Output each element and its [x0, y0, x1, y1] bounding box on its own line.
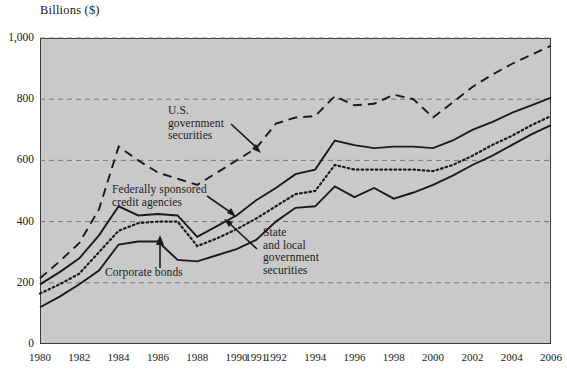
- annotation-state-local-line4: securities: [263, 264, 319, 277]
- annotation-state-local: State and local government securities: [263, 226, 319, 276]
- annotation-fed-credit-line1: Federally sponsored: [112, 183, 207, 196]
- x-tick-label: 1996: [334, 351, 374, 363]
- chart-svg: [0, 0, 567, 376]
- y-tick-label: 0: [0, 337, 34, 349]
- annotation-corporate-line1: Corporate bonds: [105, 266, 183, 279]
- x-tick-label: 2004: [492, 351, 532, 363]
- y-tick-label: 800: [0, 92, 34, 104]
- x-tick-label: 1986: [138, 351, 178, 363]
- x-tick-label: 2006: [531, 351, 567, 363]
- annotation-us-gov-line2: government: [168, 117, 224, 130]
- annotation-fed-credit-line2: credit agencies: [112, 196, 207, 209]
- annotation-us-gov-line3: securities: [168, 129, 224, 142]
- x-tick-label: 1992: [256, 351, 296, 363]
- annotation-state-local-line1: State: [263, 226, 319, 239]
- leader-fed-credit-arrowhead: [227, 208, 236, 217]
- annotation-us-gov-line1: U.S.: [168, 104, 224, 117]
- x-tick-label: 1984: [99, 351, 139, 363]
- x-tick-label: 1980: [20, 351, 60, 363]
- x-tick-label: 1998: [374, 351, 414, 363]
- y-tick-label: 200: [0, 276, 34, 288]
- x-tick-label: 1994: [295, 351, 335, 363]
- y-tick-label: 400: [0, 215, 34, 227]
- y-tick-label: 600: [0, 153, 34, 165]
- x-tick-label: 1982: [59, 351, 99, 363]
- annotation-corporate: Corporate bonds: [105, 266, 183, 279]
- x-tick-label: 1988: [177, 351, 217, 363]
- chart-container: Billions ($) 02004006008001,000 19801982…: [0, 0, 567, 376]
- annotation-state-local-line3: government: [263, 251, 319, 264]
- x-tick-label: 2000: [413, 351, 453, 363]
- y-tick-label: 1,000: [0, 31, 34, 43]
- annotation-fed-credit: Federally sponsored credit agencies: [112, 183, 207, 208]
- annotation-us-gov: U.S. government securities: [168, 104, 224, 142]
- x-tick-label: 2002: [452, 351, 492, 363]
- leader-corporate-arrowhead: [156, 235, 164, 245]
- annotation-state-local-line2: and local: [263, 239, 319, 252]
